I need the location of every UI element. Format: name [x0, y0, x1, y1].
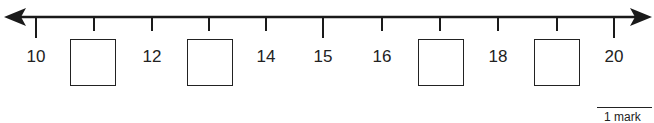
- tick-label-12: 12: [143, 47, 162, 67]
- tick-label-10: 10: [27, 47, 46, 67]
- answer-box-11[interactable]: [70, 39, 116, 86]
- answer-box-17[interactable]: [418, 39, 464, 86]
- marks-label: 1 mark: [604, 110, 641, 123]
- answer-box-19[interactable]: [534, 39, 580, 86]
- tick-label-15: 15: [314, 47, 333, 67]
- marks-divider: [597, 107, 652, 108]
- tick-label-16: 16: [373, 47, 392, 67]
- tick-label-18: 18: [489, 47, 508, 67]
- answer-box-13[interactable]: [187, 39, 233, 86]
- tick-label-14: 14: [257, 47, 276, 67]
- tick-label-20: 20: [605, 47, 624, 67]
